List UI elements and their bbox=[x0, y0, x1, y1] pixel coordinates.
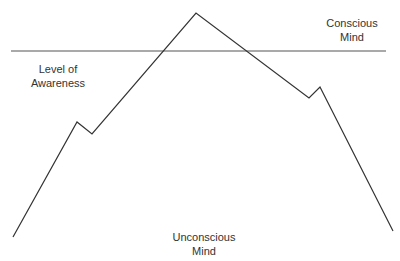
conscious-label-line1: Conscious bbox=[316, 16, 388, 30]
level-of-awareness-label: Level of Awareness bbox=[22, 62, 94, 90]
conscious-label-line2: Mind bbox=[316, 30, 388, 44]
conscious-mind-label: Conscious Mind bbox=[316, 16, 388, 44]
unconscious-label-line2: Mind bbox=[164, 244, 244, 258]
unconscious-label-line1: Unconscious bbox=[164, 230, 244, 244]
mind-mountain-outline bbox=[13, 13, 393, 237]
unconscious-mind-label: Unconscious Mind bbox=[164, 230, 244, 258]
awareness-label-line1: Level of bbox=[22, 62, 94, 76]
awareness-label-line2: Awareness bbox=[22, 76, 94, 90]
